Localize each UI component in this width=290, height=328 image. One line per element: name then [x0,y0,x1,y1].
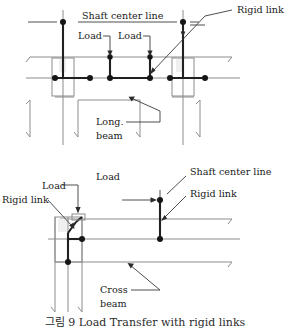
node-beam-left-inner [52,75,58,81]
figure-caption: 그림 9 Load Transfer with rigid links [45,316,246,328]
load-left-leader [103,36,110,44]
support-leg-1-foot [26,132,30,137]
bottom-diagram-group: Load Shaft center line Rigid link Load R… [2,166,272,312]
node-beam-left-outer [87,75,93,81]
label-rigid-link-bottom-right: Rigid link [190,188,237,199]
top-diagram-group: Shaft center line Rigid link Load Load L… [26,4,284,145]
cross-beam-leader [130,265,160,290]
node-beam-mid-left [107,75,113,81]
long-beam-leader [131,98,160,111]
bottom-node-shaft-top [157,197,163,203]
support-leg-3-foot [136,132,140,137]
rigid-link-leader-top-seg [205,10,232,16]
bottom-rigid-link-right-leader [164,196,186,218]
node-beam-mid-right [147,75,153,81]
figure-root: Shaft center line Rigid link Load Load L… [0,0,290,328]
label-shaft-center-line-top: Shaft center line [82,10,164,21]
label-rigid-link-top: Rigid link [237,4,284,15]
label-cross-beam-line2: beam [100,298,127,309]
node-left-shaft-top [60,19,66,25]
support-leg-2-foot [74,132,78,137]
bottom-load-left-arrowhead [75,207,80,214]
label-cross-beam-line1: Cross [100,284,128,295]
bottom-foot-left [51,307,55,312]
bottom-load-right-arrowhead [151,197,158,203]
node-beam-right-outer [202,75,208,81]
bottom-foot-right [78,307,82,312]
beam-right-end-tick [228,57,232,62]
node-right-shaft-top [180,19,186,25]
label-load-right-bottom: Load [96,171,120,182]
bottom-node-link-right [79,236,85,242]
support-leg-1-tick [26,100,30,104]
label-rigid-link-bottom-left: Rigid link [2,194,49,205]
label-shaft-center-line-bottom: Shaft center line [190,166,272,177]
node-beam-right-inner [167,75,173,81]
cross-beam-bottom-end-tick [228,262,232,267]
beam-left-end-tick [26,57,30,62]
label-load-right-top: Load [118,30,142,41]
bottom-shaft-center-leader [167,176,186,194]
bottom-left-shaft-hatch [58,219,67,232]
label-long-beam-line1: Long. [96,116,124,127]
support-leg-4-tick [196,100,200,104]
bottom-node-shaft-beam [157,236,163,242]
label-load-left-top: Load [78,30,102,41]
label-load-left-bottom: Load [42,180,66,191]
load-right-leader [143,36,150,44]
label-long-beam-line2: beam [96,130,123,141]
rigid-link-branch-arrowhead [181,32,186,38]
diagram-canvas: Shaft center line Rigid link Load Load L… [0,0,290,328]
bottom-node-link-bottom [65,259,71,265]
cross-beam-top-end-tick [228,219,232,224]
support-leg-4-foot [196,132,200,137]
